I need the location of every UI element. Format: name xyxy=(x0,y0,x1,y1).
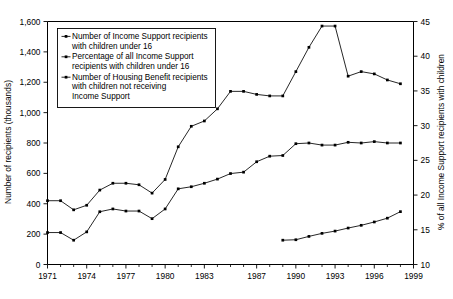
svg-text:600: 600 xyxy=(27,168,41,178)
svg-text:1999: 1999 xyxy=(404,271,423,281)
svg-text:400: 400 xyxy=(27,199,41,209)
svg-text:200: 200 xyxy=(27,229,41,239)
svg-text:1971: 1971 xyxy=(38,271,57,281)
svg-text:Number of Income Support recip: Number of Income Support recipients xyxy=(72,32,208,41)
svg-text:20: 20 xyxy=(421,190,431,200)
svg-text:45: 45 xyxy=(421,17,431,27)
svg-text:1,600: 1,600 xyxy=(20,17,41,27)
svg-text:35: 35 xyxy=(421,86,431,96)
svg-text:with children under 16: with children under 16 xyxy=(71,42,153,51)
svg-text:Number of Housing Benefit reci: Number of Housing Benefit recipients xyxy=(72,73,208,82)
chart-figure: 1971197419771980198319871990199319961999… xyxy=(0,0,453,299)
svg-text:recipients with children under: recipients with children under 16 xyxy=(72,62,190,71)
svg-text:1974: 1974 xyxy=(77,271,96,281)
svg-text:1,000: 1,000 xyxy=(20,108,41,118)
svg-text:15: 15 xyxy=(421,225,431,235)
svg-text:800: 800 xyxy=(27,138,41,148)
svg-text:30: 30 xyxy=(421,121,431,131)
svg-text:1977: 1977 xyxy=(117,271,136,281)
y-axis-right-title: % of all Income Support recipients with … xyxy=(436,54,446,230)
svg-text:40: 40 xyxy=(421,51,431,61)
svg-text:1,200: 1,200 xyxy=(20,77,41,87)
svg-text:1990: 1990 xyxy=(287,271,306,281)
svg-text:with children not receiving: with children not receiving xyxy=(71,82,167,91)
svg-text:1980: 1980 xyxy=(156,271,175,281)
svg-text:Income Support: Income Support xyxy=(72,92,131,101)
legend-entry-2: Percentage of all Income Supportrecipien… xyxy=(62,52,195,71)
svg-text:1983: 1983 xyxy=(195,271,214,281)
chart-legend: Number of Income Support recipientswith … xyxy=(58,29,216,108)
svg-text:10: 10 xyxy=(421,260,431,270)
line-chart: 1971197419771980198319871990199319961999… xyxy=(0,0,453,299)
svg-text:Percentage of all Income Suppo: Percentage of all Income Support xyxy=(72,52,194,61)
y-axis-left-title: Number of recipients (thousands) xyxy=(3,80,13,204)
svg-text:1,400: 1,400 xyxy=(20,47,41,57)
svg-text:0: 0 xyxy=(36,260,41,270)
svg-text:1987: 1987 xyxy=(247,271,266,281)
svg-text:1996: 1996 xyxy=(365,271,384,281)
svg-text:1993: 1993 xyxy=(326,271,345,281)
svg-text:25: 25 xyxy=(421,155,431,165)
